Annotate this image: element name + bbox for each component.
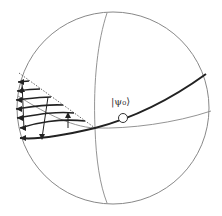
flow-lines bbox=[16, 81, 85, 128]
arrow-left-icon bbox=[20, 125, 26, 131]
transverse-arrows bbox=[22, 82, 68, 138]
bloch-sphere-diagram: |ψ₀⟩ bbox=[0, 0, 222, 216]
state-label: |ψ₀⟩ bbox=[111, 96, 130, 108]
sphere-outline bbox=[17, 12, 209, 204]
meridian bbox=[95, 13, 107, 203]
dotted-boundary bbox=[19, 73, 95, 128]
state-point bbox=[119, 114, 128, 123]
